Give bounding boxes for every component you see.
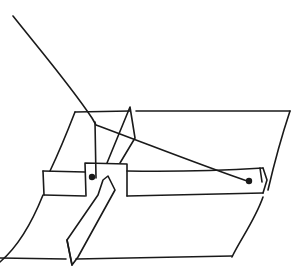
band-left-end — [43, 171, 44, 195]
band-bottom — [44, 193, 263, 196]
pin-right-icon — [246, 178, 252, 184]
strip-lower — [67, 176, 115, 265]
band-top — [43, 168, 263, 172]
tray-back-edge — [75, 111, 290, 112]
tray-front-edge — [0, 256, 232, 259]
sketch-canvas — [0, 0, 305, 279]
pin-left-icon — [89, 174, 95, 180]
strip-lower-fold — [67, 240, 72, 265]
tray-left-edge — [0, 112, 75, 262]
string-drop — [95, 122, 96, 178]
tray-right-edge — [232, 111, 290, 257]
string-line — [13, 16, 250, 182]
band-right-end — [260, 168, 267, 193]
